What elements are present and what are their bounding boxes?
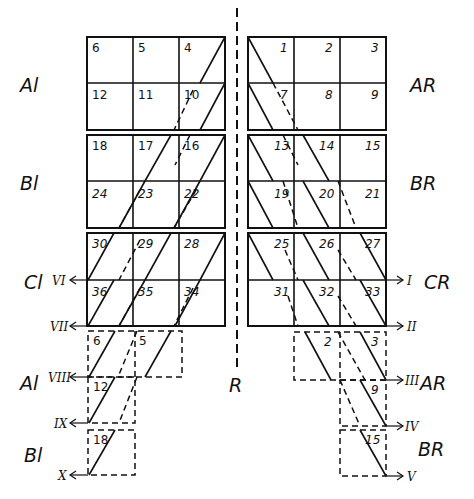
roman-iv: IV [404, 420, 420, 434]
ext-cell-2: 2 [324, 335, 332, 349]
ext-cell-3: 3 [371, 335, 379, 349]
cell-22: 22 [184, 187, 199, 201]
roman-iii: III [404, 374, 419, 388]
cell-16: 16 [184, 139, 199, 153]
cell-2: 2 [325, 41, 333, 55]
label-bl-ext: Bl [24, 444, 43, 466]
cell-21: 21 [365, 187, 380, 201]
ext-cell-15: 15 [365, 433, 380, 447]
label-br-ext: BR [418, 438, 444, 460]
cell-3: 3 [371, 41, 379, 55]
ext-cell-5: 5 [139, 334, 147, 348]
right-grid [248, 37, 386, 326]
cell-9: 9 [371, 88, 379, 102]
ext-cell-9: 9 [371, 383, 379, 397]
left-solid-diagonals [88, 37, 225, 475]
cell-19: 19 [274, 187, 289, 201]
label-al: Al [18, 74, 39, 96]
cell-11: 11 [138, 88, 153, 102]
roman-vi: VI [52, 274, 66, 288]
roman-x: X [57, 469, 67, 483]
ext-cell-18: 18 [93, 433, 108, 447]
label-ar-ext: AR [418, 372, 446, 394]
cell-25: 25 [274, 237, 289, 251]
axis-label-r: R [229, 374, 242, 396]
cell-17: 17 [138, 139, 153, 153]
left-arrows: VI VII VIII IX X [48, 274, 88, 483]
roman-viii: VIII [48, 371, 71, 385]
cell-13: 13 [274, 139, 289, 153]
cell-24: 24 [92, 187, 107, 201]
ext-cell-6: 6 [93, 334, 101, 348]
cell-5: 5 [138, 41, 146, 55]
roman-i: I [406, 274, 412, 288]
right-arrows: I II III IV V [386, 274, 420, 484]
stitch-diagram: 6 5 4 12 11 10 18 17 16 24 23 22 30 29 2… [0, 0, 474, 499]
roman-ii: II [406, 320, 417, 334]
cell-23: 23 [138, 187, 153, 201]
cell-8: 8 [325, 88, 333, 102]
roman-vii: VII [50, 320, 68, 334]
cell-31: 31 [274, 285, 289, 299]
label-ar: AR [408, 74, 436, 96]
cell-26: 26 [319, 237, 335, 251]
cell-34: 34 [184, 285, 199, 299]
cell-30: 30 [92, 237, 108, 251]
cell-18: 18 [92, 139, 107, 153]
cell-27: 27 [365, 237, 381, 251]
roman-ix: IX [53, 417, 68, 431]
label-cl: Cl [24, 271, 43, 293]
cell-29: 29 [138, 237, 153, 251]
cell-20: 20 [319, 187, 335, 201]
label-br: BR [410, 172, 436, 194]
cell-32: 32 [319, 285, 334, 299]
cell-4: 4 [184, 41, 192, 55]
cell-12: 12 [92, 88, 107, 102]
cell-10: 10 [184, 88, 199, 102]
right-solid-diagonals [248, 37, 386, 476]
cell-35: 35 [138, 285, 153, 299]
cell-6: 6 [92, 41, 100, 55]
label-bl: Bl [20, 172, 39, 194]
left-cell-numbers: 6 5 4 12 11 10 18 17 16 24 23 22 30 29 2… [92, 41, 200, 299]
cell-33: 33 [365, 285, 380, 299]
label-cr: CR [424, 271, 450, 293]
cell-1: 1 [280, 41, 288, 55]
cell-7: 7 [280, 88, 288, 102]
roman-v: V [407, 470, 417, 484]
left-grid [87, 37, 225, 326]
ext-cell-12: 12 [93, 380, 108, 394]
cell-36: 36 [92, 285, 108, 299]
cell-28: 28 [184, 237, 200, 251]
cell-14: 14 [319, 139, 334, 153]
cell-15: 15 [365, 139, 380, 153]
label-al-ext: Al [18, 372, 39, 394]
